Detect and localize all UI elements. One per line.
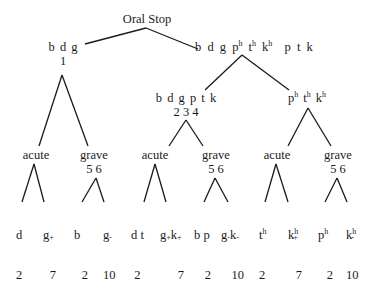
leaf-d: d 2 9 <box>16 203 22 291</box>
edge-root-right <box>146 28 198 49</box>
leaf-g-minus-k-minus: g-k- 10 <box>221 203 244 291</box>
left-acute-label: acute <box>23 149 49 162</box>
left-grave-numbers: 5 6 <box>86 163 102 176</box>
node-bdg-label: b d g <box>49 41 78 54</box>
edge-bdg-acute <box>39 75 62 146</box>
unasp-acute-label: acute <box>142 149 168 162</box>
asp-acute-label: acute <box>264 149 290 162</box>
asp-grave-numbers: 5 6 <box>330 163 346 176</box>
node-bdg-numbers: 1 <box>60 55 66 68</box>
leaf-g-minus: g- 10 <box>103 203 116 291</box>
left-grave-label: grave <box>80 149 108 162</box>
edge-all-unaspirated <box>205 55 242 90</box>
leaf-p-h: ph 2 8 11 12 13 <box>318 203 333 291</box>
leaf-g-plus: g+ 7 8 10 <box>43 203 56 291</box>
unasp-grave-numbers: 5 6 <box>208 163 224 176</box>
edge-asp-grave <box>308 108 331 146</box>
unasp-grave-label: grave <box>202 149 230 162</box>
node-unaspirated-label: b d g p t k <box>156 92 216 105</box>
edge-bdg-grave <box>62 75 88 146</box>
leaf-k-h-minus: kh- 10 <box>346 203 359 291</box>
node-aspirated-label: ph th kh <box>288 92 326 105</box>
edge-asp-acute <box>288 108 308 146</box>
leaf-b-p: b p 2 8 11 12 13 <box>194 203 211 291</box>
leaf-g-plus-k-plus: g+k+ 7 8 10 <box>160 203 184 291</box>
leaf-k-h-plus: kh+ 7 8 10 <box>288 203 302 291</box>
root-node-label: Oral Stop <box>123 13 171 26</box>
node-all-stops-label: b d g ph th kh p t k <box>195 41 313 54</box>
leaf-t-h: th 2 9 <box>259 203 266 291</box>
node-unaspirated-numbers: 2 3 4 <box>174 106 199 119</box>
leaf-b: b 2 8 11 12 13 <box>74 203 88 291</box>
asp-grave-label: grave <box>324 149 352 162</box>
edge-root-left <box>85 28 146 44</box>
edge-unasp-acute <box>169 120 186 146</box>
edge-unasp-grave <box>186 120 203 146</box>
edge-all-aspirated <box>242 55 289 90</box>
leaf-d-t: d t 2 9 <box>131 203 144 291</box>
